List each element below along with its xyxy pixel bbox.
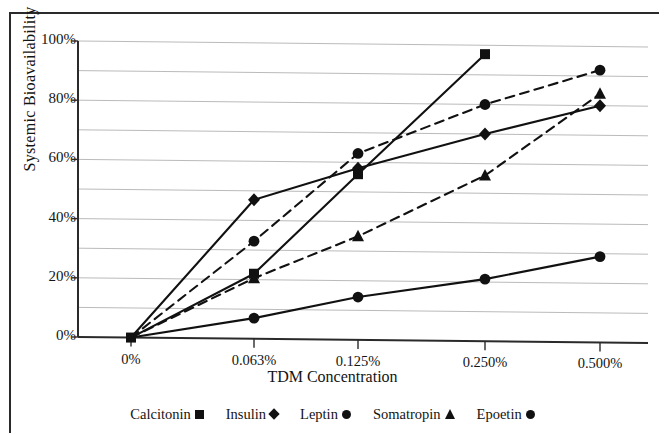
legend-item: Somatropin [373, 405, 455, 423]
x-axis-tick-label: 0.063% [209, 352, 299, 369]
legend-item-label: Leptin [300, 406, 338, 422]
circle-marker-icon [526, 410, 535, 419]
square-marker-icon [195, 410, 204, 419]
diamond-marker-icon [268, 408, 279, 419]
chart-legend: CalcitoninInsulinLeptinSomatropinEpoetin [0, 404, 665, 423]
legend-item: Calcitonin [130, 405, 203, 423]
x-axis-title: TDM Concentration [0, 368, 665, 386]
chart-figure: Systemic Bioavailability 0%20%40%60%80%1… [0, 0, 665, 435]
x-axis-tick-label: 0% [86, 351, 176, 368]
legend-item-label: Somatropin [373, 406, 441, 422]
triangle-marker-icon [445, 409, 455, 419]
legend-item-label: Insulin [226, 406, 266, 422]
circle-marker-icon [342, 410, 351, 419]
legend-item: Epoetin [477, 405, 535, 423]
legend-item: Insulin [226, 405, 278, 423]
legend-item: Leptin [300, 405, 351, 423]
legend-item-label: Epoetin [477, 406, 522, 422]
legend-item-label: Calcitonin [130, 406, 190, 422]
